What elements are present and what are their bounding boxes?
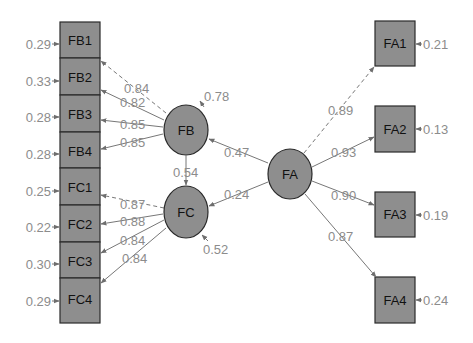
indicator-label: FB3	[68, 107, 92, 122]
residual-label: 0.24	[423, 293, 448, 308]
indicator-label: FC1	[68, 180, 93, 195]
indicator-label: FC3	[68, 254, 93, 269]
path-FA-FC-label: 0.24	[224, 187, 249, 202]
residual-label: 0.29	[26, 294, 51, 309]
loading-label: 0.89	[328, 103, 353, 118]
indicator-FA2[interactable]: FA2	[375, 106, 415, 152]
loading-label: 0.88	[120, 214, 145, 229]
residual-label: 0.25	[26, 184, 51, 199]
loading-label: 0.85	[120, 135, 145, 150]
residual-label: 0.30	[26, 257, 51, 272]
latent-label: FC	[177, 205, 194, 220]
residual-label: 0.13	[423, 122, 448, 137]
indicator-label: FB1	[68, 33, 92, 48]
indicator-FA3[interactable]: FA3	[375, 192, 415, 237]
indicator-label: FA2	[383, 122, 406, 137]
indicator-label: FA1	[383, 36, 406, 51]
indicator-label: FC4	[68, 292, 93, 307]
residual-label: 0.28	[26, 110, 51, 125]
fc-loadings: 0.87 0.88 0.84 0.84	[101, 195, 166, 283]
latent-label: FA	[282, 167, 298, 182]
loading-label: 0.82	[120, 95, 145, 110]
residual-label: 0.19	[423, 208, 448, 223]
left-indicators: FB1 FB2 FB3 FB4 FC1 FC2 FC3 FC4	[60, 22, 100, 323]
indicator-FC3[interactable]: FC3	[60, 242, 100, 278]
sem-diagram: FB1 FB2 FB3 FB4 FC1 FC2 FC3 FC4	[0, 0, 473, 343]
indicator-FC1[interactable]: FC1	[60, 168, 100, 205]
loading-label: 0.84	[124, 81, 149, 96]
loading-label: 0.87	[328, 229, 353, 244]
indicator-FA1[interactable]: FA1	[375, 21, 415, 66]
indicator-FB3[interactable]: FB3	[60, 95, 100, 132]
fb-loadings: 0.84 0.82 0.85 0.85	[101, 61, 166, 150]
path-FB-FC-label: 0.54	[173, 165, 198, 180]
loading-label: 0.90	[331, 188, 356, 203]
residual-label: 0.22	[26, 220, 51, 235]
indicator-label: FA3	[383, 207, 406, 222]
fb-residual-label: 0.78	[204, 89, 229, 104]
residual-label: 0.28	[26, 147, 51, 162]
loading-label: 0.87	[120, 197, 145, 212]
indicator-FA4[interactable]: FA4	[375, 277, 415, 323]
indicator-FB1[interactable]: FB1	[60, 22, 100, 58]
loading-label: 0.84	[120, 233, 145, 248]
indicator-FC4[interactable]: FC4	[60, 278, 100, 323]
indicator-FB2[interactable]: FB2	[60, 58, 100, 95]
indicator-FB4[interactable]: FB4	[60, 132, 100, 168]
residual-label: 0.21	[423, 37, 448, 52]
residual-label: 0.33	[26, 74, 51, 89]
left-residuals: 0.29 0.33 0.28 0.28 0.25 0.22 0.30 0.29	[26, 37, 59, 309]
indicator-label: FB4	[68, 144, 92, 159]
indicator-label: FC2	[68, 217, 93, 232]
indicator-label: FA4	[383, 293, 406, 308]
loading-label: 0.93	[331, 145, 356, 160]
latent-FC[interactable]: FC	[164, 186, 208, 238]
loading-label: 0.84	[122, 251, 147, 266]
fc-residual-arrow	[202, 235, 208, 241]
path-FA-FB-label: 0.47	[224, 145, 249, 160]
right-residuals: 0.21 0.13 0.19 0.24	[416, 37, 448, 308]
residual-label: 0.29	[26, 37, 51, 52]
latent-label: FB	[178, 123, 195, 138]
indicator-FC2[interactable]: FC2	[60, 205, 100, 242]
right-indicators: FA1 FA2 FA3 FA4	[375, 21, 415, 323]
loading-label: 0.85	[120, 117, 145, 132]
latent-FA[interactable]: FA	[268, 149, 312, 199]
indicator-label: FB2	[68, 70, 92, 85]
fc-residual-label: 0.52	[203, 242, 228, 257]
fa-loadings: 0.89 0.93 0.90 0.87	[304, 67, 376, 277]
latent-FB[interactable]: FB	[164, 105, 208, 155]
